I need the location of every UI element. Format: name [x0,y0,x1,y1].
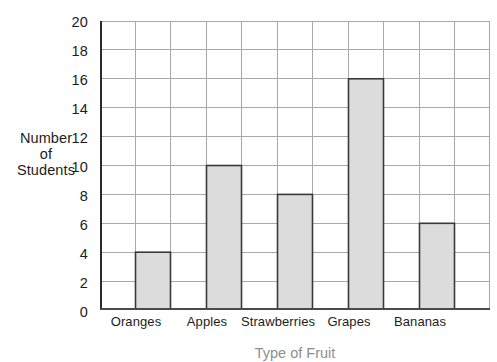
y-tick-label-8: 8 [62,189,88,204]
y-tick-label-16: 16 [62,73,88,88]
x-tick-label-oranges: Oranges [95,315,177,329]
y-tick-label-14: 14 [62,102,88,117]
plot-svg [100,21,490,310]
y-tick-label-0: 0 [62,305,88,320]
bar-apples[interactable] [207,166,242,310]
y-tick-label-18: 18 [62,44,88,59]
bar-grapes[interactable] [349,79,384,310]
y-tick-label-10: 10 [62,160,88,175]
y-tick-label-2: 2 [62,276,88,291]
y-tick-label-6: 6 [62,218,88,233]
x-tick-label-bananas: Bananas [378,315,462,329]
bar-strawberries[interactable] [278,194,313,309]
x-axis-title: Type of Fruit [100,345,490,362]
y-tick-label-12: 12 [62,131,88,146]
y-tick-label-20: 20 [62,15,88,30]
y-tick-label-4: 4 [62,247,88,262]
plot-area [100,21,490,310]
bar-bananas[interactable] [420,223,455,309]
bar-oranges[interactable] [136,252,171,309]
